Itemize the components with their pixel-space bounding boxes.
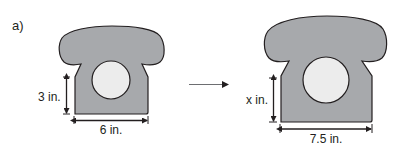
original-dial-circle: [92, 61, 130, 99]
similar-figures-diagram: a) 3 in. 6 in. x in. 7.5 in.: [0, 0, 399, 153]
enlarged-dial-circle: [303, 57, 349, 103]
original-height-dimension: [63, 77, 70, 114]
enlarged-height-dimension: [269, 78, 277, 122]
enlarged-width-label: 7.5 in.: [310, 132, 343, 146]
original-telephone: [59, 26, 164, 114]
part-label: a): [12, 18, 24, 33]
enlarged-telephone: [264, 16, 386, 122]
transformation-arrow: [189, 81, 229, 88]
original-width-label: 6 in.: [100, 123, 123, 137]
enlarged-height-label: x in.: [246, 93, 268, 107]
original-height-label: 3 in.: [38, 90, 61, 104]
